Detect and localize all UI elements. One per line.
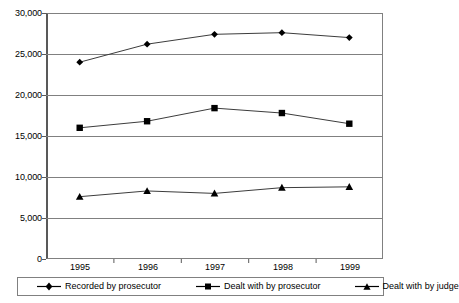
legend-item-dealt-with-by-prosecutor[interactable]: Dealt with by prosecutor <box>195 281 321 292</box>
legend: Recorded by prosecutor Dealt with by pro… <box>17 277 384 296</box>
legend-item-recorded-by-prosecutor[interactable]: Recorded by prosecutor <box>36 281 161 292</box>
legend-label: Dealt with by prosecutor <box>224 282 321 291</box>
y-axis-tick-label: 30,000 <box>2 9 42 18</box>
x-axis-tick-label: 1995 <box>46 263 114 272</box>
legend-label: Dealt with by judge <box>383 282 459 291</box>
x-axis-tick-label: 1999 <box>316 263 384 272</box>
diamond-marker-icon <box>36 281 62 292</box>
y-axis: 30,000 25,000 20,000 15,000 10,000 5,000… <box>0 0 42 303</box>
square-marker-icon <box>195 281 221 292</box>
legend-label: Recorded by prosecutor <box>65 282 161 291</box>
y-axis-tick-label: 20,000 <box>2 91 42 100</box>
y-axis-tick-label: 15,000 <box>2 132 42 141</box>
y-axis-tick-label: 25,000 <box>2 50 42 59</box>
plot-area <box>46 13 383 259</box>
y-axis-tick-label: 5,000 <box>2 214 42 223</box>
y-axis-tick-label: 0 <box>2 255 42 264</box>
legend-item-dealt-with-by-judge[interactable]: Dealt with by judge <box>354 281 459 292</box>
triangle-marker-icon <box>354 281 380 292</box>
x-axis-tick-label: 1997 <box>181 263 249 272</box>
x-axis-tick-label: 1998 <box>249 263 317 272</box>
y-axis-tick-label: 10,000 <box>2 173 42 182</box>
x-axis-tick-label: 1996 <box>114 263 182 272</box>
